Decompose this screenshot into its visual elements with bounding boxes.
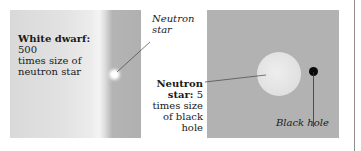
white-dwarf-multiplier: 500 (18, 44, 37, 55)
neutron-label-line-4: of black (146, 111, 203, 122)
neutron-star-leader-line (117, 42, 150, 72)
page-divider-line (354, 0, 355, 151)
neutron-label-line-5: hole (146, 122, 203, 133)
white-dwarf-line-2: times size of (18, 55, 103, 66)
neutron-star-size-label: Neutron star: 5 times size of black hole (146, 78, 203, 133)
neutron-label-multiplier: 5 (193, 89, 203, 100)
black-hole-label: Black hole (276, 117, 329, 128)
white-dwarf-line-3: neutron star (18, 66, 103, 77)
neutron-label-title-2: star: (168, 89, 194, 100)
neutron-label-title-1: Neutron (156, 78, 203, 89)
neutron-size-leader-line (205, 75, 266, 82)
white-dwarf-label: White dwarf: 500 times size of neutron s… (18, 33, 103, 77)
white-dwarf-title: White dwarf: (18, 33, 90, 44)
neutron-star-callout-line-2: star (152, 24, 202, 35)
neutron-star-callout-line-1: Neutron (152, 13, 202, 24)
neutron-star-callout: Neutron star (152, 13, 202, 35)
neutron-label-line-3: times size (146, 100, 203, 111)
